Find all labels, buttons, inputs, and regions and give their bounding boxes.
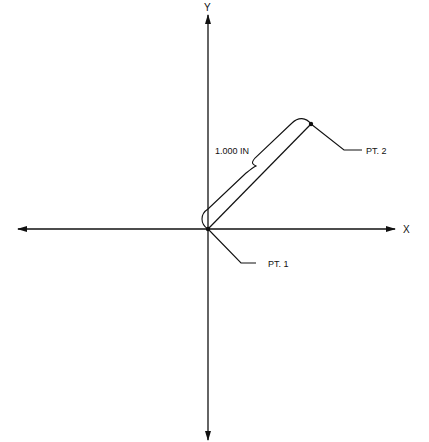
dimension-brace xyxy=(202,119,311,229)
x-axis-label: X xyxy=(403,224,410,235)
pt1-label: PT. 1 xyxy=(268,259,289,269)
dimension-label: 1.000 IN xyxy=(215,146,249,156)
coordinate-diagram: X Y 1.000 IN PT. 1 PT. 2 xyxy=(0,0,429,442)
pt2-label: PT. 2 xyxy=(366,146,387,156)
pt1-leader-line xyxy=(208,229,256,263)
pt2-leader-line xyxy=(311,124,362,150)
segment-pt1-pt2 xyxy=(208,124,311,229)
y-axis-label: Y xyxy=(204,2,211,13)
